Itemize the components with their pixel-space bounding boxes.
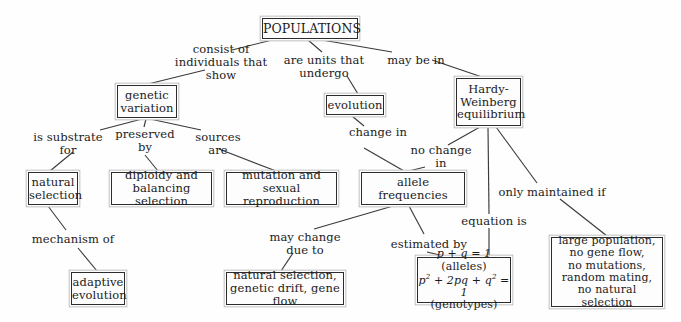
node-label: p + q = 1 (alleles)p2 + 2pq + q2 = 1(gen… (418, 248, 510, 311)
node-label: large population,no gene flow,no mutatio… (552, 235, 662, 309)
node-diploidy-balancing[interactable]: diploidy andbalancing selection (111, 172, 212, 205)
node-genetic-variation[interactable]: geneticvariation (117, 85, 177, 118)
link-label-preserved-by: preserved by (113, 128, 177, 154)
connector-allele-to-maychange (314, 206, 393, 229)
node-allele-frequencies[interactable]: allelefrequencies (361, 172, 465, 205)
link-label-change-in: change in (345, 126, 411, 139)
node-label: naturalselection (29, 176, 77, 202)
node-label: allelefrequencies (362, 176, 464, 202)
link-label-mechanism-of: mechanism of (27, 233, 119, 246)
link-label-consist-of: consist of individuals that show (161, 43, 281, 82)
connector-hw-to-onlymaint (496, 127, 537, 183)
node-label: adaptiveevolution (72, 276, 124, 302)
link-label-no-change-in: no change in (408, 144, 474, 170)
node-label: diploidy andbalancing selection (112, 169, 211, 208)
node-hw-conditions[interactable]: large population,no gene flow,no mutatio… (551, 237, 663, 307)
link-label-equation-is: equation is (458, 215, 530, 228)
link-label-may-change-due-to: may change due to (267, 231, 343, 257)
node-ns-gd-gf[interactable]: natural selection,genetic drift, gene fl… (226, 272, 344, 305)
link-label-is-substrate-for: is substrate for (32, 131, 104, 157)
connector-natural-to-mechanism (48, 206, 66, 230)
node-adaptive-evolution[interactable]: adaptiveevolution (71, 272, 125, 305)
node-hw-equation[interactable]: p + q = 1 (alleles)p2 + 2pq + q2 = 1(gen… (417, 257, 511, 303)
link-label-may-be-in: may be in (383, 54, 449, 67)
connector-hw-to-equation (488, 127, 489, 214)
connector-allele-to-estimated (409, 206, 424, 234)
link-label-estimated-by: estimated by (387, 238, 471, 251)
node-evolution[interactable]: evolution (326, 95, 384, 115)
node-populations[interactable]: POPULATIONS (262, 18, 358, 39)
node-natural-selection[interactable]: naturalselection (28, 172, 78, 205)
connector-pop-to-areunits (308, 40, 322, 52)
connector-onlymaint-to-cond (560, 199, 607, 236)
connector-genetic-to-preserved (144, 119, 146, 127)
node-mutation-sexual[interactable]: mutation andsexual reproduction (226, 172, 337, 205)
concept-map-canvas: POPULATIONSgeneticvariationevolutionHard… (0, 0, 681, 322)
node-label: natural selection,genetic drift, gene fl… (227, 269, 343, 308)
node-label: geneticvariation (118, 89, 176, 115)
node-label: Hardy-Weinbergequilibrium (457, 83, 520, 122)
node-label: evolution (327, 99, 383, 112)
connector-mechanism-to-adaptive (78, 248, 97, 271)
link-label-sources-are: sources are (191, 131, 245, 157)
node-label: POPULATIONS (263, 22, 357, 36)
node-hardy-weinberg[interactable]: Hardy-Weinbergequilibrium (456, 78, 521, 126)
node-label: mutation andsexual reproduction (227, 169, 336, 208)
link-label-only-maintained-if: only maintained if (497, 186, 607, 199)
connector-change-to-allele (364, 148, 404, 171)
link-label-are-units-that-undergo: are units that undergo (279, 54, 369, 80)
connector-pop-to-maybein (322, 40, 392, 52)
